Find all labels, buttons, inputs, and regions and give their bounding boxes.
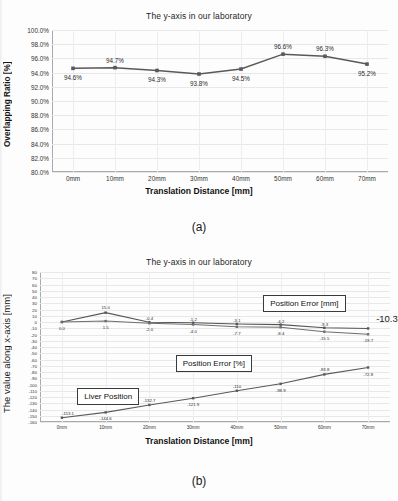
- y-axis-tick-label: -40: [31, 345, 37, 350]
- x-axis-tick-label: 50mm: [274, 175, 292, 182]
- data-point-label: -110: [233, 384, 241, 389]
- data-point-label: 0.0: [59, 326, 65, 331]
- x-axis-tick-label: 20mm: [143, 425, 156, 430]
- data-point-label: -144.6: [100, 416, 112, 421]
- y-axis-tick-label: 88.0%: [31, 112, 49, 119]
- series-marker: [148, 404, 150, 406]
- y-axis-tick-label: -90: [31, 376, 37, 381]
- figure-a-caption: (a): [0, 220, 398, 234]
- y-axis-tick-label: 50: [32, 288, 37, 293]
- data-point-label: 96.6%: [274, 43, 292, 50]
- series-marker: [236, 390, 238, 392]
- y-axis-tick-label: 80: [32, 270, 37, 275]
- data-point-label: -8.4: [277, 331, 284, 336]
- data-point-label: 94.7%: [106, 57, 124, 64]
- data-point-label: -19.7: [363, 338, 373, 343]
- data-point-label: 96.3%: [316, 45, 334, 52]
- series-marker: [192, 397, 194, 399]
- y-axis-tick-label: -110: [29, 388, 37, 393]
- series-marker: [61, 321, 63, 323]
- series-marker: [281, 52, 285, 56]
- series-marker: [113, 66, 117, 70]
- y-axis-tick-label: -50: [31, 351, 37, 356]
- series-layer: [52, 30, 388, 172]
- y-axis-tick-label: -140: [28, 407, 37, 412]
- series-marker: [323, 327, 325, 329]
- y-axis-tick-label: 82.0%: [31, 154, 49, 161]
- x-axis-tick-label: 30mm: [190, 175, 208, 182]
- series-marker: [367, 327, 369, 329]
- data-point-label: 94.5%: [232, 75, 250, 82]
- y-axis-tick-label: -150: [28, 413, 37, 418]
- series-marker: [239, 67, 243, 71]
- series-marker: [71, 67, 75, 71]
- data-point-label: -153.1: [62, 411, 74, 416]
- chart-b-y-axis-title: The value along x-axis [mm]: [1, 276, 15, 432]
- series-marker: [367, 366, 369, 368]
- series-marker: [236, 323, 238, 325]
- x-axis-tick-label: 70mm: [362, 425, 375, 430]
- x-axis-tick-label: 30mm: [187, 425, 200, 430]
- y-axis-tick-label: -160: [28, 420, 37, 425]
- series-marker: [236, 326, 238, 328]
- data-point-label: -0.4: [146, 316, 153, 321]
- legend-callout-position-error-mm: Position Error [mm]: [263, 295, 345, 312]
- chart-a-title: The y-axis in our laboratory: [0, 2, 398, 21]
- y-axis-tick-label: 20: [32, 307, 37, 312]
- data-point-label: 94.6%: [64, 74, 82, 81]
- data-point-label: 94.3%: [148, 76, 166, 83]
- data-point-label: -3.1: [233, 318, 240, 323]
- y-axis-tick-label: -80: [31, 370, 37, 375]
- data-point-label: 93.8%: [190, 80, 208, 87]
- x-axis-tick-label: 10mm: [99, 425, 112, 430]
- y-axis-tick-label: 94.0%: [31, 69, 49, 76]
- x-axis-tick-label: 60mm: [318, 425, 331, 430]
- data-point-label: -7.7: [233, 331, 240, 336]
- x-axis-tick-label: 70mm: [358, 175, 376, 182]
- data-point-label: 15.0: [101, 305, 109, 310]
- figure-page: The y-axis in our laboratory Overlapping…: [0, 0, 398, 501]
- figure-b-caption: (b): [0, 474, 398, 488]
- data-point-label: -83.8: [319, 367, 329, 372]
- y-axis-tick-label: 86.0%: [31, 126, 49, 133]
- series-marker: [155, 69, 159, 73]
- y-axis-tick-label: 84.0%: [31, 140, 49, 147]
- y-axis-tick-label: 100.0%: [27, 27, 49, 34]
- data-point-label: -2.0: [146, 327, 153, 332]
- final-error-annotation: -10.3: [376, 313, 398, 324]
- data-point-label: 1.5: [103, 325, 109, 330]
- chart-a-plot: Overlapping Ratio [%] 100.0%98.0%96.0%94…: [0, 26, 398, 194]
- y-axis-tick-label: 80.0%: [31, 169, 49, 176]
- chart-a-y-axis-title: Overlapping Ratio [%]: [3, 44, 15, 164]
- y-axis-tick-label: 60: [32, 282, 37, 287]
- figure-b: The y-axis in our laboratory The value a…: [0, 252, 398, 501]
- data-point-label: 95.2%: [358, 70, 376, 77]
- y-axis-tick-label: 0: [35, 320, 37, 325]
- data-point-label: -4.0: [189, 329, 196, 334]
- series-marker: [365, 62, 369, 66]
- x-axis-tick-label: 0mm: [57, 425, 67, 430]
- y-axis-tick-label: -20: [31, 332, 37, 337]
- series-marker: [192, 323, 194, 325]
- chart-a-x-axis-title: Translation Distance [mm]: [0, 186, 398, 196]
- data-point-label: -98.9: [276, 388, 286, 393]
- legend-callout-liver-position: Liver Position: [77, 388, 139, 405]
- legend-callout-position-error-percent: Position Error [%]: [176, 355, 252, 372]
- y-axis-tick-label: 10: [32, 313, 37, 318]
- x-axis-tick-label: 40mm: [230, 425, 243, 430]
- data-point-label: -1.2: [189, 317, 196, 322]
- series-marker: [279, 326, 281, 328]
- y-axis-tick-label: 90.0%: [31, 98, 49, 105]
- y-axis-tick-label: 30: [32, 301, 37, 306]
- y-axis-tick-label: -70: [31, 363, 37, 368]
- series-marker: [104, 320, 106, 322]
- series-marker: [279, 323, 281, 325]
- series-marker: [104, 311, 106, 313]
- gridline-horizontal: [40, 422, 390, 423]
- y-axis-tick-label: -100: [28, 382, 37, 387]
- gridline-horizontal: [52, 172, 388, 173]
- x-axis-tick-label: 60mm: [316, 175, 334, 182]
- y-axis-tick-label: 70: [32, 276, 37, 281]
- y-axis-tick-label: -30: [31, 338, 37, 343]
- series-marker: [279, 383, 281, 385]
